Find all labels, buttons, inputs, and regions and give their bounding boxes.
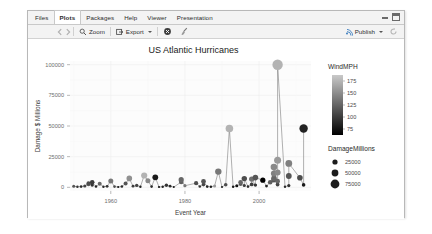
data-point[interactable]	[215, 168, 221, 174]
zoom-button[interactable]: Zoom	[75, 26, 109, 37]
y-tick-label: 0	[61, 184, 64, 190]
data-point[interactable]	[199, 185, 202, 188]
chevron-down-icon[interactable]	[148, 31, 152, 33]
data-point[interactable]	[106, 185, 109, 188]
back-arrow-icon[interactable]	[56, 28, 64, 36]
data-point[interactable]	[139, 186, 141, 188]
size-legend-marker	[332, 159, 337, 164]
tab-label: Presentation	[177, 14, 213, 21]
magnifier-icon	[79, 28, 87, 36]
plot-canvas: US Atlantic Hurricanes025000500007500010…	[28, 39, 404, 219]
data-point[interactable]	[247, 185, 250, 188]
data-point[interactable]	[210, 186, 212, 188]
tab-files[interactable]: Files	[30, 11, 54, 24]
data-point[interactable]	[150, 185, 153, 188]
publish-button[interactable]: Publish	[341, 26, 387, 37]
y-tick-label: 25000	[48, 154, 64, 160]
data-point[interactable]	[265, 185, 268, 188]
data-point[interactable]	[183, 184, 186, 187]
broom-icon[interactable]	[176, 27, 193, 36]
data-point[interactable]	[72, 185, 75, 188]
data-point[interactable]	[297, 175, 303, 181]
data-point[interactable]	[169, 185, 172, 188]
window-controls	[381, 13, 400, 21]
data-point[interactable]	[158, 186, 160, 188]
data-point[interactable]	[302, 183, 306, 187]
data-point[interactable]	[253, 175, 259, 181]
data-point[interactable]	[235, 184, 238, 187]
data-point[interactable]	[274, 157, 281, 164]
tab-presentation[interactable]: Presentation	[172, 11, 218, 24]
data-point[interactable]	[201, 179, 206, 184]
size-legend-label: 50000	[345, 170, 361, 176]
data-point[interactable]	[179, 177, 184, 182]
x-axis-label: Event Year	[175, 209, 207, 216]
colorbar-tick-label: 150	[347, 90, 356, 96]
data-point[interactable]	[145, 178, 150, 183]
data-point[interactable]	[254, 183, 257, 186]
refresh-icon[interactable]	[389, 27, 398, 36]
data-point[interactable]	[287, 184, 290, 187]
forward-arrow-icon[interactable]	[64, 28, 72, 36]
data-point[interactable]	[113, 185, 116, 188]
data-point[interactable]	[275, 179, 280, 184]
data-point[interactable]	[260, 178, 265, 183]
data-point[interactable]	[95, 185, 98, 188]
colorbar-tick-label: 175	[347, 78, 356, 84]
data-point[interactable]	[284, 186, 286, 188]
chart-title: US Atlantic Hurricanes	[149, 45, 240, 55]
tab-plots[interactable]: Plots	[54, 10, 82, 24]
data-point[interactable]	[102, 186, 104, 188]
tab-packages[interactable]: Packages	[81, 11, 119, 24]
y-tick-label: 100000	[45, 62, 64, 68]
tab-label: Viewer	[147, 14, 166, 21]
maximize-window-icon[interactable]	[392, 13, 400, 21]
data-point[interactable]	[108, 178, 113, 183]
data-point[interactable]	[152, 174, 158, 180]
data-point[interactable]	[98, 182, 102, 186]
data-point[interactable]	[90, 180, 95, 185]
data-point[interactable]	[80, 185, 83, 188]
data-point[interactable]	[224, 183, 228, 187]
data-point[interactable]	[165, 184, 168, 187]
minimize-window-icon[interactable]	[381, 13, 389, 21]
data-point[interactable]	[271, 164, 278, 171]
data-point[interactable]	[135, 184, 138, 187]
tab-viewer[interactable]: Viewer	[142, 11, 171, 24]
data-point[interactable]	[162, 186, 164, 188]
tab-help[interactable]: Help	[119, 11, 142, 24]
toolbar-divider-2	[110, 27, 111, 36]
data-point[interactable]	[250, 183, 254, 187]
data-point[interactable]	[76, 186, 78, 188]
legend-title-damagemillions: DamageMillions	[328, 145, 376, 153]
size-legend-marker	[331, 180, 340, 189]
data-point[interactable]	[275, 170, 281, 176]
data-point[interactable]	[299, 124, 307, 132]
data-point[interactable]	[242, 176, 247, 181]
data-point[interactable]	[285, 160, 292, 167]
data-point[interactable]	[121, 185, 124, 188]
pane-tabbar: FilesPlotsPackagesHelpViewerPresentation	[28, 11, 404, 25]
data-point[interactable]	[272, 60, 282, 70]
data-point[interactable]	[124, 182, 128, 186]
data-point[interactable]	[173, 186, 175, 188]
data-point[interactable]	[238, 180, 243, 185]
chevron-down-icon[interactable]	[379, 31, 383, 33]
data-point[interactable]	[226, 125, 234, 133]
data-point[interactable]	[221, 186, 223, 188]
data-point[interactable]	[232, 186, 234, 188]
data-point[interactable]	[286, 173, 292, 179]
data-point[interactable]	[213, 185, 216, 188]
data-point[interactable]	[83, 184, 86, 187]
data-point[interactable]	[243, 184, 246, 187]
data-point[interactable]	[132, 185, 135, 188]
data-point[interactable]	[117, 186, 119, 188]
data-point[interactable]	[206, 185, 209, 188]
size-legend-label: 75000	[345, 181, 361, 187]
x-tick-label: 1980	[179, 198, 191, 204]
data-point[interactable]	[194, 181, 198, 185]
export-button[interactable]: Export	[112, 26, 156, 37]
remove-plot-icon[interactable]	[159, 27, 176, 36]
data-point[interactable]	[127, 176, 133, 182]
data-point[interactable]	[141, 172, 147, 178]
